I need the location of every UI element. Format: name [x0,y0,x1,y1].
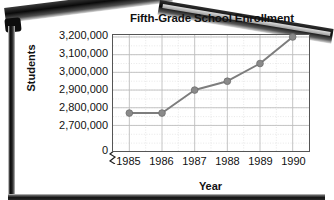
data-point-marker [257,60,264,67]
data-point-marker [159,110,166,117]
x-axis-title: Year [108,180,313,192]
plot-area [112,34,310,152]
y-tick-label: 3,000,000 [16,65,108,77]
x-tick-label: 1989 [244,155,278,167]
data-point-marker [224,78,231,85]
y-tick-label: 3,100,000 [16,47,108,59]
data-point-marker [126,110,133,117]
data-series [113,35,309,151]
y-tick-label: 2,800,000 [16,101,108,113]
y-tick-label: 2,700,000 [16,119,108,131]
x-tick-label: 1985 [112,155,146,167]
chart-title: Fifth-Grade School Enrollment [103,12,321,24]
x-tick-label: 1990 [277,155,311,167]
x-axis-tick-labels: 198519861987198819891990 [112,155,310,171]
y-axis-tick-labels: 3,200,0003,100,0003,000,0002,900,0002,80… [14,0,108,200]
x-tick-label: 1988 [211,155,245,167]
y-tick-label: 2,900,000 [16,83,108,95]
y-axis-zero-label: 0 [14,144,108,156]
y-tick-label: 3,200,000 [16,29,108,41]
data-point-marker [289,34,296,41]
data-point-marker [191,87,198,94]
x-tick-label: 1987 [178,155,212,167]
x-tick-label: 1986 [145,155,179,167]
series-line [129,37,292,113]
